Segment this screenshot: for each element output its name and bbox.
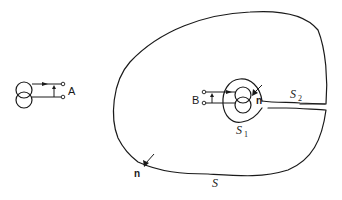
left-voltage-arrow-icon (52, 85, 56, 89)
svg-text:S: S (212, 176, 218, 190)
right-transformer-element: B (192, 87, 251, 113)
left-lead-arrow-icon (42, 82, 48, 86)
inner-normal-label: n (256, 95, 262, 106)
right-transformer-coil-top-icon (235, 87, 251, 103)
left-port-terminal-bottom (61, 95, 65, 99)
right-transformer-coil-bottom-icon (235, 97, 251, 113)
left-port-terminal-top (61, 82, 65, 86)
port-label-b: B (192, 94, 199, 106)
right-lead-arrow-icon (226, 90, 232, 94)
channel-s2-top (262, 101, 325, 104)
svg-text:S: S (236, 123, 242, 137)
left-transformer-element: A (16, 82, 76, 108)
right-port-terminal-top (202, 90, 206, 94)
left-transformer-coil-top-icon (16, 82, 32, 98)
label-s2: S 2 (290, 87, 302, 103)
svg-text:1: 1 (244, 130, 248, 139)
right-voltage-arrow-icon (210, 93, 214, 97)
port-label-a: A (68, 85, 76, 97)
label-s: S (212, 176, 218, 190)
svg-text:S: S (290, 87, 296, 101)
svg-text:2: 2 (298, 94, 302, 103)
outer-normal-label: n (134, 168, 140, 179)
outer-normal-line (146, 154, 154, 163)
diagram-canvas: A B n n S 2 S 1 S (0, 0, 342, 200)
label-s1: S 1 (236, 123, 248, 139)
right-port-terminal-bottom (202, 101, 206, 105)
left-transformer-coil-bottom-icon (16, 92, 32, 108)
